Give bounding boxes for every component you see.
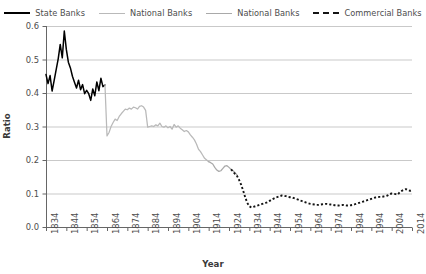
gridlines — [46, 27, 412, 195]
y-tick-label: 0.5 — [13, 55, 39, 65]
x-tick-label: 2014 — [416, 213, 426, 234]
x-tick-label: 1914 — [212, 213, 222, 234]
x-tick-label: 1854 — [90, 213, 100, 234]
x-tick-label: 1924 — [233, 213, 243, 234]
series-paths — [46, 31, 412, 208]
chart-container: State BanksNational BanksNational BanksC… — [0, 0, 426, 274]
y-tick-label: 0.0 — [13, 222, 39, 232]
y-axis-title: Ratio — [2, 113, 12, 138]
y-tick-label: 0.2 — [13, 155, 39, 165]
y-tick-label: 0.4 — [13, 88, 39, 98]
x-tick-label: 1894 — [172, 213, 182, 234]
y-tick-label: 0.1 — [13, 189, 39, 199]
series-line — [209, 162, 237, 175]
series-line — [105, 85, 209, 162]
x-tick-label: 1974 — [334, 213, 344, 234]
series-line — [231, 169, 412, 207]
x-tick-label: 1954 — [294, 213, 304, 234]
x-tick-label: 1874 — [131, 213, 141, 234]
plot-area: 0.00.10.20.30.40.50.6 183418441854186418… — [0, 0, 426, 274]
y-tick-label: 0.3 — [13, 122, 39, 132]
x-tick-label: 1864 — [111, 213, 121, 234]
x-tick-label: 1964 — [314, 213, 324, 234]
series-line — [46, 31, 105, 100]
y-tick-label: 0.6 — [13, 21, 39, 31]
tick-marks — [43, 27, 413, 232]
x-tick-label: 1844 — [70, 213, 80, 234]
x-tick-label: 1884 — [151, 213, 161, 234]
x-tick-label: 1904 — [192, 213, 202, 234]
x-tick-label: 2004 — [395, 213, 405, 234]
x-tick-label: 1834 — [50, 213, 60, 234]
x-tick-label: 1934 — [253, 213, 263, 234]
x-tick-label: 1994 — [375, 213, 385, 234]
x-tick-label: 1984 — [355, 213, 365, 234]
x-axis-title: Year — [0, 259, 426, 269]
x-tick-label: 1944 — [273, 213, 283, 234]
